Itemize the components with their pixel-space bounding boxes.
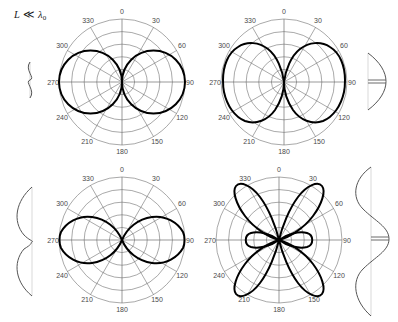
tick-label-240: 240 <box>213 272 225 279</box>
polar-plot-bottom-left: 0 30 60 90 120 150 180 210 240 270 300 3… <box>0 161 199 322</box>
tick-label-300: 300 <box>218 42 230 49</box>
tick-label-120: 120 <box>176 272 188 279</box>
current-curve <box>368 53 386 110</box>
polar-plot-bottom-right: 0 30 60 90 120 150 180 210 240 270 300 3… <box>199 161 398 322</box>
tick-label-0: 0 <box>120 166 124 173</box>
panel-bottom-left: 0 30 60 90 120 150 180 210 240 270 300 3… <box>0 161 199 322</box>
tick-label-300: 300 <box>56 42 68 49</box>
tick-label-210: 210 <box>243 138 255 145</box>
tick-label-300: 300 <box>56 200 68 207</box>
current-curve <box>17 187 32 296</box>
pattern-lobe-left <box>223 43 284 122</box>
tick-label-60: 60 <box>178 42 186 49</box>
polar-plot-top-left: 0 30 60 90 120 150 180 210 240 270 300 3… <box>0 0 199 161</box>
panel-bottom-right: 0 30 60 90 120 150 180 210 240 270 300 3… <box>199 161 398 322</box>
tick-label-0: 0 <box>277 166 281 173</box>
tick-label-330: 330 <box>82 17 94 24</box>
case-label-top-left: L ≪ λ0 <box>14 8 46 22</box>
tick-label-180: 180 <box>116 306 128 313</box>
tick-label-0: 0 <box>282 8 286 15</box>
tick-label-330: 330 <box>239 175 251 182</box>
tick-label-270: 270 <box>204 237 216 244</box>
tick-label-180: 180 <box>273 306 285 313</box>
tick-label-270: 270 <box>47 237 59 244</box>
antenna-radiation-pattern-figure: 0 30 60 90 120 150 180 210 240 270 300 3… <box>0 0 398 322</box>
tick-label-300: 300 <box>213 200 225 207</box>
tick-label-330: 330 <box>82 175 94 182</box>
tick-label-270: 270 <box>209 79 221 86</box>
tick-label-180: 180 <box>278 148 290 155</box>
current-curve <box>356 167 389 316</box>
tick-label-240: 240 <box>56 114 68 121</box>
current-distribution-sketch-tr <box>368 53 386 110</box>
tick-label-90: 90 <box>343 237 351 244</box>
tick-label-60: 60 <box>335 200 343 207</box>
tick-label-180: 180 <box>116 148 128 155</box>
current-distribution-sketch-br <box>356 167 389 316</box>
tick-label-270: 270 <box>47 79 59 86</box>
current-distribution-sketch-tl <box>28 62 31 98</box>
polar-plot-top-right: 0 30 60 90 120 150 180 210 240 270 300 3… <box>199 0 398 161</box>
tick-label-90: 90 <box>186 237 194 244</box>
current-distribution-sketch-bl <box>17 187 32 296</box>
tick-label-30: 30 <box>309 175 317 182</box>
tick-label-120: 120 <box>338 114 350 121</box>
tick-label-240: 240 <box>56 272 68 279</box>
tick-label-150: 150 <box>313 138 325 145</box>
tick-label-60: 60 <box>340 42 348 49</box>
panel-top-left: 0 30 60 90 120 150 180 210 240 270 300 3… <box>0 0 199 161</box>
tick-label-30: 30 <box>152 17 160 24</box>
tick-label-90: 90 <box>186 79 194 86</box>
panel-top-right: 0 30 60 90 120 150 180 210 240 270 300 3… <box>199 0 398 161</box>
tick-label-210: 210 <box>81 296 93 303</box>
tick-label-30: 30 <box>152 175 160 182</box>
tick-label-60: 60 <box>178 200 186 207</box>
tick-label-30: 30 <box>314 17 322 24</box>
tick-label-150: 150 <box>151 296 163 303</box>
tick-label-150: 150 <box>151 138 163 145</box>
tick-label-120: 120 <box>176 114 188 121</box>
tick-label-330: 330 <box>244 17 256 24</box>
tick-label-0: 0 <box>120 8 124 15</box>
tick-label-120: 120 <box>333 272 345 279</box>
tick-label-90: 90 <box>348 79 356 86</box>
tick-label-240: 240 <box>218 114 230 121</box>
pattern-lobe-right <box>284 43 345 122</box>
tick-label-210: 210 <box>81 138 93 145</box>
